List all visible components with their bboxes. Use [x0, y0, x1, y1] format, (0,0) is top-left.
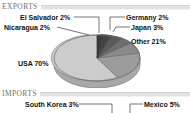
label-south-korea: South Korea 3%	[25, 101, 79, 109]
label-mexico: Mexico 5%	[144, 101, 180, 109]
leader-mexico	[130, 104, 143, 113]
label-usa: USA 70%	[18, 60, 48, 68]
label-el-salvador: El Salvador 2%	[20, 14, 70, 22]
label-nicaragua: Nicaragua 2%	[4, 24, 50, 32]
label-germany: Germany 2%	[126, 14, 168, 22]
leader-south-korea	[79, 104, 112, 113]
section-header-imports: IMPORTS	[0, 88, 190, 99]
section-title-imports: IMPORTS	[0, 89, 37, 98]
section-rule-imports	[40, 92, 190, 97]
infographic-page: EXPORTS	[0, 0, 190, 113]
label-other: Other 21%	[131, 38, 166, 46]
section-title-exports: EXPORTS	[0, 2, 38, 11]
exports-pie-chart	[0, 11, 190, 88]
exports-pie-svg	[0, 11, 190, 88]
label-japan: Japan 3%	[131, 24, 163, 32]
section-rule-exports	[41, 5, 190, 10]
